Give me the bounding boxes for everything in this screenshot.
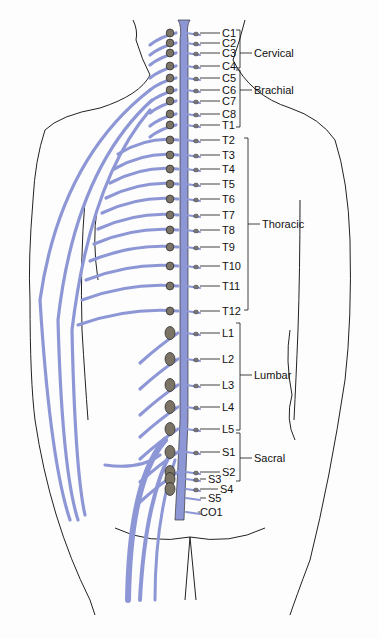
body-illustration bbox=[0, 0, 379, 638]
spinal-nerve-diagram: C1C2C3C4C5C6C7C8T1T2T3T4T5T6T7T8T9T10T11… bbox=[0, 0, 379, 638]
segment-label-l3: L3 bbox=[222, 380, 234, 391]
group-label-thoracic: Thoracic bbox=[262, 219, 304, 230]
segment-label-l5: L5 bbox=[222, 424, 234, 435]
group-label-lumbar: Lumbar bbox=[254, 370, 291, 381]
segment-label-t1: T1 bbox=[222, 120, 235, 131]
segment-label-l1: L1 bbox=[222, 328, 234, 339]
segment-label-t3: T3 bbox=[222, 150, 235, 161]
segment-label-s2: S2 bbox=[222, 467, 235, 478]
segment-label-t2: T2 bbox=[222, 135, 235, 146]
segment-label-t6: T6 bbox=[222, 194, 235, 205]
group-label-brachial: Brachial bbox=[254, 85, 294, 96]
segment-label-co1: CO1 bbox=[200, 507, 223, 518]
segment-label-c7: C7 bbox=[222, 96, 236, 107]
segment-label-t9: T9 bbox=[222, 242, 235, 253]
segment-label-s4: S4 bbox=[220, 484, 233, 495]
segment-label-c4: C4 bbox=[222, 61, 236, 72]
segment-label-t5: T5 bbox=[222, 179, 235, 190]
segment-label-s5: S5 bbox=[208, 493, 221, 504]
segment-label-c3: C3 bbox=[222, 48, 236, 59]
segment-label-t11: T11 bbox=[222, 281, 240, 292]
segment-label-s1: S1 bbox=[222, 447, 235, 458]
segment-label-l2: L2 bbox=[222, 354, 234, 365]
segment-label-t4: T4 bbox=[222, 164, 235, 175]
segment-label-c5: C5 bbox=[222, 73, 236, 84]
group-label-sacral: Sacral bbox=[254, 453, 285, 464]
group-label-cervical: Cervical bbox=[254, 48, 294, 59]
segment-label-t10: T10 bbox=[222, 261, 241, 272]
segment-label-t12: T12 bbox=[222, 306, 241, 317]
segment-label-l4: L4 bbox=[222, 402, 234, 413]
segment-label-t8: T8 bbox=[222, 225, 235, 236]
segment-label-t7: T7 bbox=[222, 210, 235, 221]
